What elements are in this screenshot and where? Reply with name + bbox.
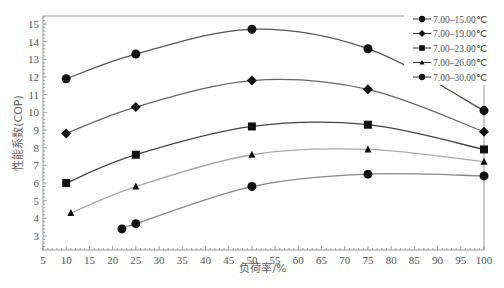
x-tick-label: 20 bbox=[107, 254, 119, 266]
legend-label: 7.00–23.00℃ bbox=[433, 44, 487, 54]
y-tick-label: 14 bbox=[28, 36, 40, 48]
x-tick-label: 35 bbox=[177, 254, 189, 266]
y-tick-label: 15 bbox=[28, 18, 40, 30]
y-tick-label: 3 bbox=[34, 230, 40, 242]
legend: 7.00–15.00℃7.00–19.00℃7.00–23.00℃7.00–26… bbox=[404, 9, 504, 85]
legend-label: 7.00–19.00℃ bbox=[433, 29, 487, 39]
legend-label: 7.00–26.00℃ bbox=[433, 58, 487, 68]
y-tick-label: 5 bbox=[34, 195, 40, 207]
x-tick-label: 85 bbox=[409, 254, 421, 266]
series-5 bbox=[117, 170, 488, 234]
legend-label: 7.00–30.00℃ bbox=[433, 73, 487, 83]
y-tick-label: 7 bbox=[34, 159, 40, 171]
y-tick-label: 4 bbox=[34, 212, 40, 224]
x-tick-label: 10 bbox=[61, 254, 73, 266]
line-chart: 3456789101112131415510152025303540455055… bbox=[0, 0, 504, 288]
legend-label: 7.00–15.00℃ bbox=[433, 15, 487, 25]
y-tick-label: 12 bbox=[28, 71, 39, 83]
x-tick-label: 30 bbox=[154, 254, 166, 266]
y-tick-label: 8 bbox=[34, 142, 40, 154]
y-tick-label: 10 bbox=[28, 106, 40, 118]
x-tick-label: 25 bbox=[130, 254, 142, 266]
y-tick-label: 11 bbox=[28, 89, 39, 101]
y-tick-label: 13 bbox=[28, 53, 40, 65]
x-tick-label: 45 bbox=[223, 254, 235, 266]
x-tick-label: 80 bbox=[386, 254, 398, 266]
x-tick-label: 95 bbox=[455, 254, 467, 266]
y-tick-label: 6 bbox=[34, 177, 40, 189]
x-tick-label: 70 bbox=[339, 254, 351, 266]
x-tick-label: 100 bbox=[476, 254, 493, 266]
x-tick-label: 5 bbox=[40, 254, 46, 266]
x-tick-label: 15 bbox=[84, 254, 96, 266]
x-tick-label: 75 bbox=[362, 254, 374, 266]
x-tick-label: 60 bbox=[293, 254, 305, 266]
y-tick-label: 9 bbox=[34, 124, 40, 136]
x-tick-label: 65 bbox=[316, 254, 328, 266]
x-axis-title: 负荷率/% bbox=[239, 261, 286, 275]
x-tick-label: 40 bbox=[200, 254, 212, 266]
x-tick-label: 90 bbox=[432, 254, 444, 266]
y-axis-title: 性能系数(COP) bbox=[11, 95, 25, 171]
